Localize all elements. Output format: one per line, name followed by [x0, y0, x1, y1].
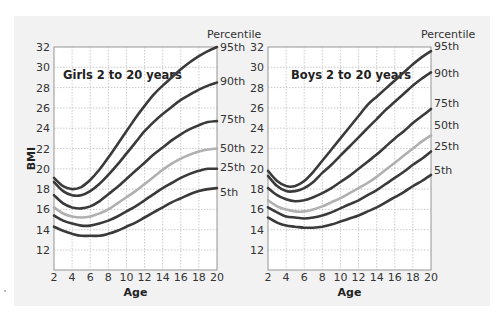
x-tick-label: 8 — [319, 271, 326, 284]
x-tick-label: 4 — [69, 271, 76, 284]
y-tick-label: 14 — [250, 224, 264, 237]
x-tick-label: 6 — [301, 271, 308, 284]
percentile-label-5th: 5th — [434, 164, 452, 177]
x-tick-label: 8 — [105, 271, 112, 284]
x-tick-label: 16 — [174, 271, 188, 284]
x-tick-label: 4 — [283, 271, 290, 284]
y-tick-label: 14 — [36, 224, 50, 237]
percentile-label-75th: 75th — [434, 97, 459, 110]
y-tick-label: 30 — [36, 61, 50, 74]
percentile-label-95th: 95th — [220, 41, 245, 54]
x-tick-label: 12 — [352, 271, 366, 284]
chart-title: Girls 2 to 20 years — [63, 68, 182, 82]
y-tick-label: 24 — [250, 122, 264, 135]
y-tick-label: 28 — [36, 82, 50, 95]
percentile-label-90th: 90th — [220, 75, 245, 88]
y-tick-label: 12 — [36, 244, 50, 257]
percentile-label-25th: 25th — [220, 161, 245, 174]
x-tick-label: 18 — [192, 271, 206, 284]
percentile-labels: 95th90th75th50th25th5th — [220, 41, 245, 199]
percentile-label-90th: 90th — [434, 67, 459, 80]
x-tick-label: 2 — [265, 271, 272, 284]
x-tick-label: 14 — [156, 271, 170, 284]
x-tick-label: 10 — [119, 271, 133, 284]
y-tick-label: 32 — [250, 41, 264, 54]
x-tick-label: 2 — [51, 271, 58, 284]
x-tick-label: 20 — [424, 271, 438, 284]
y-axis-title: BMI — [25, 147, 38, 170]
y-tick-label: 30 — [250, 61, 264, 74]
y-tick-label: 28 — [250, 82, 264, 95]
y-axis-ticks: 1214161820222426283032 — [36, 41, 50, 257]
percentile-label-50th: 50th — [434, 119, 459, 132]
x-tick-label: 6 — [87, 271, 94, 284]
y-tick-label: 18 — [250, 183, 264, 196]
percentile-label-25th: 25th — [434, 140, 459, 153]
x-axis-ticks: 2468101214161820 — [265, 271, 439, 284]
percentile-labels: 95th90th75th50th25th5th — [434, 40, 459, 177]
x-tick-label: 18 — [406, 271, 420, 284]
legend-title: Percentile — [207, 28, 262, 41]
chart-title: Boys 2 to 20 years — [291, 68, 411, 82]
y-tick-label: 18 — [36, 183, 50, 196]
x-tick-label: 14 — [370, 271, 384, 284]
x-axis-ticks: 2468101214161820 — [51, 271, 225, 284]
percentile-label-75th: 75th — [220, 113, 245, 126]
x-tick-label: 16 — [388, 271, 402, 284]
y-tick-label: 20 — [36, 163, 50, 176]
x-axis-title: Age — [338, 286, 362, 299]
y-tick-label: 26 — [250, 102, 264, 115]
y-tick-label: 22 — [36, 143, 50, 156]
girls-bmi-chart: 12141618202224262830322468101214161820Ag… — [25, 28, 262, 299]
x-tick-label: 10 — [333, 271, 347, 284]
y-tick-label: 32 — [36, 41, 50, 54]
x-tick-label: 12 — [138, 271, 152, 284]
y-tick-label: 24 — [36, 122, 50, 135]
y-axis-ticks: 1214161820222426283032 — [250, 41, 264, 257]
percentile-label-95th: 95th — [434, 40, 459, 53]
x-axis-title: Age — [124, 286, 148, 299]
bmi-charts: 12141618202224262830322468101214161820Ag… — [0, 0, 503, 322]
y-tick-label: 22 — [250, 143, 264, 156]
y-tick-label: 12 — [250, 244, 264, 257]
y-tick-label: 26 — [36, 102, 50, 115]
y-tick-label: 16 — [250, 203, 264, 216]
y-tick-label: 20 — [250, 163, 264, 176]
y-tick-label: 16 — [36, 203, 50, 216]
boys-bmi-chart: 12141618202224262830322468101214161820Ag… — [250, 28, 476, 299]
percentile-label-5th: 5th — [220, 186, 238, 199]
x-tick-label: 20 — [210, 271, 224, 284]
percentile-label-50th: 50th — [220, 142, 245, 155]
